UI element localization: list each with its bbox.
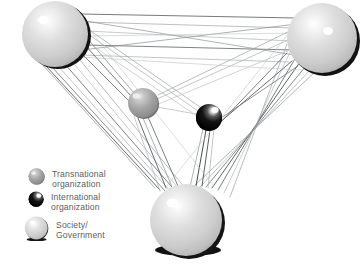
- legend-item-international: International organization: [24, 191, 174, 212]
- society-top-left-specular: [38, 16, 48, 24]
- international-body: [196, 104, 222, 130]
- node-transnational-1[interactable]: [128, 88, 159, 119]
- edge-bundle-topleft-topright: [79, 14, 297, 62]
- society-top-left-body: [22, 1, 88, 67]
- legend: Transnational organization International…: [24, 164, 174, 243]
- transnational-body: [128, 88, 158, 118]
- society-top-right-specular: [323, 27, 333, 35]
- society-sphere-icon: [24, 216, 49, 241]
- international-sphere-icon: [28, 191, 44, 207]
- legend-item-transnational: Transnational organization: [24, 168, 174, 189]
- edge-bundle-transnational-international: [157, 107, 196, 114]
- edge-bundle-bottom-international: [190, 128, 214, 188]
- international-specular: [211, 107, 218, 113]
- transnational-sphere-icon: [28, 168, 45, 185]
- legend-item-society: Society/ Government: [24, 216, 174, 241]
- edge-bundle-topright-transnational: [156, 30, 292, 105]
- legend-label-international: International organization: [51, 191, 100, 212]
- network-diagram: Transnational organization International…: [0, 0, 362, 270]
- node-society-top-left[interactable]: [22, 1, 91, 69]
- legend-label-transnational: Transnational organization: [52, 168, 106, 189]
- legend-label-society: Society/ Government: [56, 216, 105, 240]
- society-top-right-body: [287, 3, 357, 73]
- transnational-specular: [133, 93, 140, 99]
- node-international-1[interactable]: [196, 104, 222, 131]
